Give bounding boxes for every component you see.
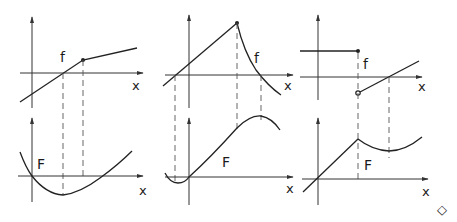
f-curve-linear xyxy=(163,23,237,86)
F-curve xyxy=(165,116,280,183)
x-axis-label: x xyxy=(132,78,140,93)
F-curve-parabola xyxy=(358,137,422,151)
F-label: F xyxy=(37,156,45,172)
x-axis-label: x xyxy=(139,183,147,198)
x-axis-label: x xyxy=(284,78,292,93)
diagram-canvas: f x F x f x xyxy=(0,0,457,222)
x-axis-label: x xyxy=(418,79,426,94)
f-curve xyxy=(20,48,137,102)
panel-middle-F-graph: F x xyxy=(165,116,294,205)
panel-middle-f-graph: f x xyxy=(163,15,293,108)
F-label: F xyxy=(222,154,230,170)
closed-dot xyxy=(356,49,360,53)
panel-left-f-graph: f x xyxy=(20,17,143,108)
F-curve-linear xyxy=(303,139,358,192)
x-axis-label: x xyxy=(422,184,430,199)
f-label: f xyxy=(363,56,369,72)
f-label: f xyxy=(60,49,66,65)
panel-right-f-graph: f x xyxy=(300,15,426,100)
panel-right-F-graph: F x xyxy=(302,118,430,205)
panel-left: f x F x xyxy=(18,17,147,202)
panel-right: f x F x xyxy=(300,15,430,205)
panel-left-F-graph: F x xyxy=(18,118,147,202)
x-axis-label: x xyxy=(286,181,294,196)
panel-middle: f x F x xyxy=(163,15,294,205)
f-curve-decay xyxy=(237,23,281,95)
F-label: F xyxy=(364,157,372,173)
f-label: f xyxy=(254,50,260,66)
end-of-example-mark: ◇ xyxy=(437,202,447,217)
